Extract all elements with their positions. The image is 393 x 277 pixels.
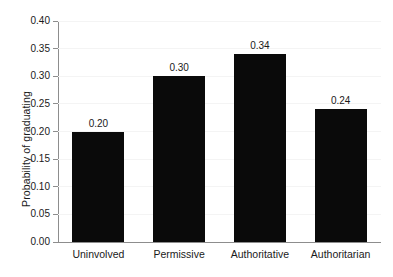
bar-chart: Probability of graduating 0.000.050.100.… <box>0 0 393 277</box>
gridline <box>58 76 381 77</box>
bar-value-label: 0.24 <box>311 95 371 107</box>
bar <box>315 109 367 242</box>
gridline <box>58 21 381 22</box>
bar <box>72 132 124 243</box>
gridline <box>58 48 381 49</box>
bar-value-label: 0.20 <box>68 118 128 130</box>
bar-value-label: 0.34 <box>230 40 290 52</box>
y-axis-tick-mark <box>53 159 58 160</box>
y-axis-tick-label: 0.00 <box>31 235 50 249</box>
y-axis-tick-mark <box>53 76 58 77</box>
x-axis-tick-label: Authoritarian <box>291 247 391 261</box>
bar <box>234 54 286 242</box>
y-axis-tick-label: 0.15 <box>31 152 50 166</box>
y-axis-line <box>58 21 59 243</box>
y-axis-tick-label: 0.25 <box>31 97 50 111</box>
y-axis-tick-label: 0.35 <box>31 42 50 56</box>
y-axis-tick-mark <box>53 131 58 132</box>
y-axis-tick-mark <box>53 21 58 22</box>
bar-value-label: 0.30 <box>149 62 209 74</box>
y-axis-tick-label: 0.30 <box>31 69 50 83</box>
y-axis-tick-label: 0.20 <box>31 125 50 139</box>
y-axis-tick-mark <box>53 48 58 49</box>
y-axis-tick-label: 0.10 <box>31 180 50 194</box>
x-axis-line <box>58 242 381 243</box>
y-axis-tick-label: 0.05 <box>31 207 50 221</box>
y-axis-tick-mark <box>53 186 58 187</box>
y-axis-tick-mark <box>53 103 58 104</box>
y-axis-tick-label: 0.40 <box>31 14 50 28</box>
y-axis-tick-mark <box>53 242 58 243</box>
bar <box>153 76 205 242</box>
y-axis-tick-mark <box>53 214 58 215</box>
